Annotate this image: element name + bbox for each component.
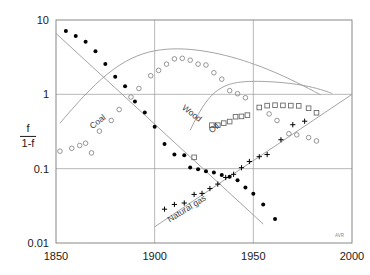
data-point <box>228 175 232 179</box>
data-point <box>182 153 186 157</box>
x-tick-label: 1850 <box>44 250 68 262</box>
y-tick-label: 0.01 <box>28 237 49 249</box>
chart-canvas: 1850190019502000 0.010.1110 WoodCoalOilN… <box>0 0 370 275</box>
chart-background <box>0 0 370 275</box>
data-point <box>243 185 247 189</box>
y-tick-label: 1 <box>43 88 49 100</box>
y-tick-label: 10 <box>37 14 49 26</box>
x-tick-label: 2000 <box>340 250 364 262</box>
data-point <box>64 29 68 33</box>
data-point <box>103 62 107 66</box>
credit-mark: AVR <box>335 233 345 238</box>
data-point <box>133 100 137 104</box>
data-point <box>153 125 157 129</box>
x-tick-label: 1950 <box>241 250 265 262</box>
energy-substitution-chart: 1850190019502000 0.010.1110 WoodCoalOilN… <box>0 0 370 275</box>
x-tick-label: 1900 <box>142 250 166 262</box>
data-point <box>172 153 176 157</box>
data-point <box>273 217 277 221</box>
data-point <box>143 110 147 114</box>
data-point <box>204 169 208 173</box>
data-point <box>93 49 97 53</box>
data-point <box>251 192 255 196</box>
y-label-denominator: 1-f <box>22 137 36 149</box>
data-point <box>261 202 265 206</box>
data-point <box>196 167 200 171</box>
data-point <box>84 40 88 44</box>
data-point <box>123 84 127 88</box>
data-point <box>212 170 216 174</box>
data-point <box>163 142 167 146</box>
data-point <box>220 173 224 177</box>
data-point <box>74 34 78 38</box>
y-tick-label: 0.1 <box>34 163 49 175</box>
credit-label: AVR <box>335 233 345 238</box>
data-point <box>113 75 117 79</box>
data-point <box>236 178 240 182</box>
data-point <box>188 165 192 169</box>
